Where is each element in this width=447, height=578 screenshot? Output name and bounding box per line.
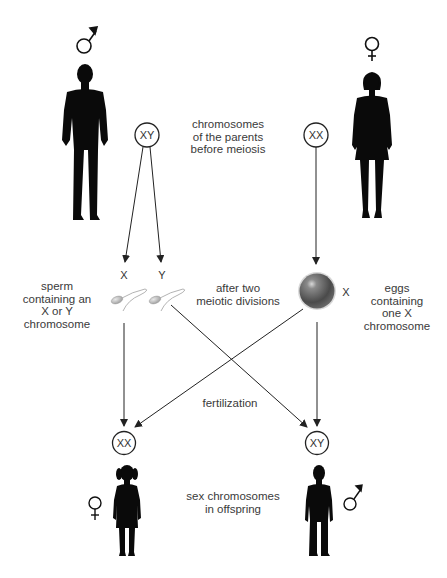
fertilization-label: fertilization: [190, 397, 270, 410]
sperm-y-label: Y: [158, 269, 166, 281]
caption-line: chromosome: [362, 320, 432, 333]
male-symbol-icon: [77, 27, 97, 53]
caption-line: in offspring: [180, 503, 286, 516]
sperm-x-icon: [110, 289, 147, 311]
caption-line: containing an: [18, 293, 96, 306]
offspring-caption: sex chromosomes in offspring: [180, 490, 286, 515]
caption-line: one X: [362, 307, 432, 320]
caption-line: eggs: [362, 282, 432, 295]
sperm-y-icon: [148, 289, 185, 311]
sperm-caption: sperm containing an X or Y chromosome: [18, 280, 96, 330]
caption-line: sex chromosomes: [180, 490, 286, 503]
male-parent-chromosome-circle: XY: [135, 123, 159, 147]
caption-line: X or Y: [18, 305, 96, 318]
son-silhouette-icon: [305, 465, 333, 556]
egg-icon: [298, 272, 336, 310]
svg-text:XY: XY: [140, 129, 155, 141]
svg-text:XX: XX: [309, 129, 324, 141]
svg-text:XY: XY: [310, 437, 325, 449]
svg-text:XX: XX: [117, 437, 132, 449]
caption-line: after two: [188, 282, 288, 295]
caption-line: chromosomes: [172, 118, 284, 131]
daughter-female-symbol-icon: [89, 497, 101, 520]
egg-x-label: X: [342, 286, 350, 298]
sperm-x-label: X: [120, 269, 128, 281]
caption-line: of the parents: [172, 131, 284, 144]
caption-line: containing: [362, 295, 432, 308]
son-chromosome-circle: XY: [306, 432, 329, 455]
daughter-chromosome-circle: XX: [113, 432, 136, 455]
caption-line: meiotic divisions: [188, 295, 288, 308]
caption-line: before meiosis: [172, 143, 284, 156]
female-parent-silhouette-icon: [352, 72, 392, 218]
meiosis-arrows: [125, 147, 316, 264]
meiosis-caption: after two meiotic divisions: [188, 282, 288, 307]
caption-line: sperm: [18, 280, 96, 293]
female-parent-chromosome-circle: XX: [304, 123, 328, 147]
egg-caption: eggs containing one X chromosome: [362, 282, 432, 332]
caption-line: chromosome: [18, 318, 96, 331]
male-parent-silhouette-icon: [62, 64, 108, 220]
parents-caption: chromosomes of the parents before meiosi…: [172, 118, 284, 156]
female-symbol-icon: [366, 38, 379, 62]
son-male-symbol-icon: [344, 485, 362, 510]
daughter-silhouette-icon: [113, 465, 141, 556]
